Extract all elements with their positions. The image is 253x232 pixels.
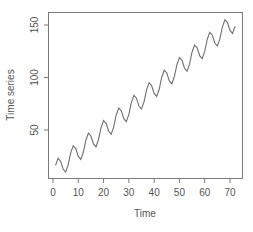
- y-tick-label: 100: [29, 69, 40, 86]
- time-series-chart: 50100150 010203040506070 Time Time serie…: [0, 0, 253, 232]
- x-tick-label: 0: [50, 187, 56, 198]
- y-axis: 50100150: [29, 16, 49, 135]
- x-tick-label: 20: [98, 187, 110, 198]
- y-tick-label: 150: [29, 16, 40, 33]
- x-tick-label: 60: [199, 187, 211, 198]
- series-line: [56, 20, 236, 172]
- x-axis-label: Time: [134, 208, 156, 219]
- x-tick-label: 70: [224, 187, 236, 198]
- x-axis: 010203040506070: [50, 179, 236, 199]
- y-tick-label: 50: [29, 124, 40, 136]
- x-tick-label: 40: [149, 187, 161, 198]
- y-axis-label: Time series: [5, 69, 16, 120]
- chart-canvas: 50100150 010203040506070 Time Time serie…: [0, 0, 253, 232]
- x-tick-label: 30: [123, 187, 135, 198]
- x-tick-label: 50: [174, 187, 186, 198]
- x-tick-label: 10: [73, 187, 85, 198]
